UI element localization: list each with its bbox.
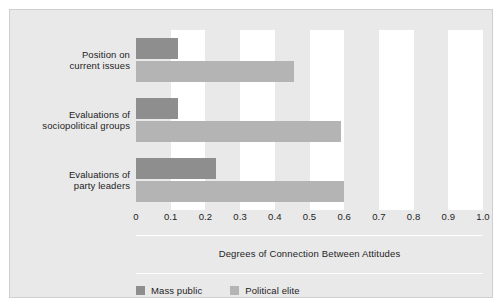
legend-label: Mass public — [151, 285, 202, 296]
category-label: Position oncurrent issues — [22, 49, 130, 72]
category-label: Evaluations ofparty leaders — [22, 169, 130, 192]
legend-item[interactable]: Political elite — [230, 285, 299, 296]
bar-mass-public — [136, 38, 178, 59]
category-label-line: current issues — [22, 60, 130, 72]
chart-figure: Position oncurrent issuesEvaluations ofs… — [0, 0, 504, 308]
x-tick-label: 0.9 — [442, 211, 456, 222]
plot-area — [136, 30, 483, 210]
x-tick-label: 0 — [133, 211, 138, 222]
x-tick-label: 0.1 — [164, 211, 178, 222]
x-tick-label: 0.6 — [337, 211, 351, 222]
bar-mass-public — [136, 98, 178, 119]
x-tick-label: 0.7 — [372, 211, 386, 222]
x-tick-label: 0.2 — [199, 211, 213, 222]
category-label-line: sociopolitical groups — [22, 120, 130, 132]
legend-item[interactable]: Mass public — [136, 285, 202, 296]
x-tick-label: 0.8 — [407, 211, 421, 222]
y-axis-labels: Position oncurrent issuesEvaluations ofs… — [20, 30, 130, 210]
legend-label: Political elite — [245, 285, 299, 296]
x-axis-ticks: 00.10.20.30.40.50.60.70.80.91.0 — [136, 211, 483, 227]
legend-swatch-icon — [136, 286, 145, 295]
divider-bottom — [136, 273, 483, 274]
grid-band — [448, 30, 483, 210]
bar-mass-public — [136, 158, 216, 179]
legend-swatch-icon — [230, 286, 239, 295]
bar-political-elite — [136, 61, 294, 82]
divider-top — [136, 235, 483, 236]
x-tick-label: 0.4 — [268, 211, 282, 222]
bar-political-elite — [136, 121, 341, 142]
grid-band — [379, 30, 414, 210]
bar-political-elite — [136, 181, 344, 202]
chart-legend: Mass publicPolitical elite — [136, 282, 483, 298]
category-label-line: party leaders — [22, 180, 130, 192]
x-tick-label: 0.3 — [233, 211, 247, 222]
category-label-line: Evaluations of — [22, 169, 130, 181]
category-label: Evaluations ofsociopolitical groups — [22, 109, 130, 132]
chart-card: Position oncurrent issuesEvaluations ofs… — [9, 9, 493, 298]
x-tick-label: 1.0 — [476, 211, 490, 222]
x-tick-label: 0.5 — [303, 211, 317, 222]
x-axis-title: Degrees of Connection Between Attitudes — [136, 248, 483, 259]
category-label-line: Evaluations of — [22, 109, 130, 121]
category-label-line: Position on — [22, 49, 130, 61]
